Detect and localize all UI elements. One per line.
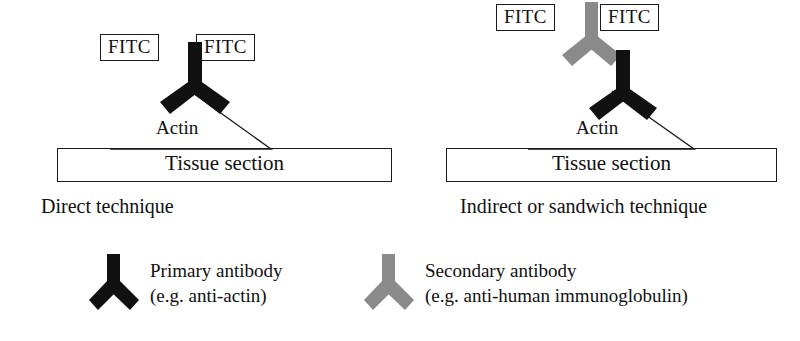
- tissue-section-box: Tissue section: [57, 148, 392, 182]
- tissue-section-label: Tissue section: [552, 153, 671, 177]
- primary-antibody-glyph: [158, 42, 232, 122]
- figure-canvas: FITC FITC Actin Tissue section Dir: [0, 0, 800, 341]
- fitc-label-box-left: FITC: [100, 34, 159, 61]
- panel-direct-technique: FITC FITC Actin Tissue section Dir: [0, 0, 400, 220]
- legend-label-primary-line2: (e.g. anti-actin): [150, 283, 267, 308]
- primary-antibody-glyph: [586, 50, 660, 128]
- fitc-label-box-left: FITC: [496, 4, 555, 31]
- panel-indirect-technique: FITC FITC Actin Tis: [400, 0, 800, 220]
- legend: Primary antibody (e.g. anti-actin) Secon…: [0, 248, 800, 341]
- panel-caption-indirect: Indirect or sandwich technique: [460, 196, 707, 216]
- legend-label-secondary-line1: Secondary antibody: [425, 258, 576, 283]
- legend-label-primary-line1: Primary antibody: [150, 258, 282, 283]
- legend-label-secondary-line2: (e.g. anti-human immunoglobulin): [425, 283, 688, 308]
- tissue-section-box: Tissue section: [446, 148, 777, 182]
- tissue-section-label: Tissue section: [165, 153, 284, 177]
- secondary-antibody-icon: [363, 254, 415, 314]
- primary-antibody-icon: [88, 254, 140, 314]
- panel-caption-direct: Direct technique: [41, 196, 174, 216]
